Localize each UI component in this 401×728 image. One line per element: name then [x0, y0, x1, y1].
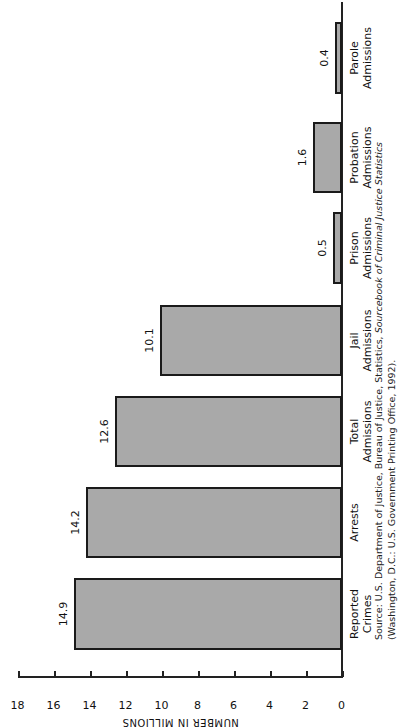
bar	[313, 122, 342, 193]
value-axis-tick	[198, 671, 200, 677]
bar-value-label: 0.5	[316, 208, 329, 288]
bar	[333, 212, 342, 284]
value-axis-tick-label: 6	[224, 699, 244, 712]
bar	[86, 487, 342, 558]
value-axis-tick-label: 8	[188, 699, 208, 712]
bar-category-label: PrisonAdmissions	[348, 203, 374, 293]
bar-category-label: Arrests	[348, 478, 361, 568]
value-axis-tick	[162, 671, 164, 677]
value-axis-tick-label: 0	[332, 699, 352, 712]
source-line2: (Washington, D.C.: U.S. Government Print…	[385, 142, 398, 640]
value-axis-tick	[270, 671, 272, 677]
value-axis-tick-label: 10	[152, 699, 172, 712]
source-prefix: Source: U.S. Department of Justice, Bure…	[373, 333, 384, 640]
bar-category-label: ReportedCrimes	[348, 569, 374, 659]
bar-category-label: ParoleAdmissions	[348, 13, 374, 103]
value-axis-title: NUMBER IN MILLIONS	[106, 717, 256, 728]
bar-value-label: 14.9	[57, 574, 70, 654]
value-axis-tick-label: 4	[260, 699, 280, 712]
source-title: Sourcebook of Criminal Justice Statistic…	[373, 142, 384, 333]
bar-value-label: 0.4	[318, 18, 331, 98]
bar-value-label: 1.6	[296, 118, 309, 198]
value-axis-tick	[306, 671, 308, 677]
value-axis-tick-label: 14	[80, 699, 100, 712]
bar-value-label: 10.1	[143, 301, 156, 381]
value-axis-tick-label: 18	[8, 699, 28, 712]
bar	[335, 22, 342, 94]
value-axis-line	[18, 677, 343, 679]
bar-value-label: 14.2	[69, 483, 82, 563]
value-axis-tick-label: 2	[296, 699, 316, 712]
value-axis-tick	[54, 671, 56, 677]
value-axis-tick	[126, 671, 128, 677]
bar-category-label: JailAdmissions	[348, 296, 374, 386]
bar	[115, 396, 342, 467]
value-axis-tick	[90, 671, 92, 677]
value-axis-tick-label: 12	[116, 699, 136, 712]
bar-value-label: 12.6	[98, 392, 111, 472]
source-note: Source: U.S. Department of Justice, Bure…	[372, 142, 398, 640]
value-axis-tick	[234, 671, 236, 677]
bar	[160, 305, 342, 376]
value-axis-tick	[18, 671, 20, 677]
bar-category-label: TotalAdmissions	[348, 387, 374, 477]
value-axis-tick	[342, 671, 344, 677]
bar-category-label: ProbationAdmissions	[348, 113, 374, 203]
value-axis-tick-label: 16	[44, 699, 64, 712]
bar	[74, 578, 342, 650]
